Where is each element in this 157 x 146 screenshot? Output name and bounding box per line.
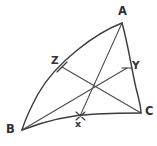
vertex-label-C: C (145, 106, 154, 118)
geometry-figure: A B C Z Y x (0, 0, 157, 146)
point-label-Z: Z (51, 55, 59, 66)
point-label-Y: Y (132, 60, 140, 71)
cevian-C-to-Z (62, 67, 141, 113)
vertex-label-B: B (6, 124, 15, 136)
cevian-A-to-x (80, 23, 122, 116)
point-label-x: x (75, 119, 81, 129)
vertex-label-A: A (118, 6, 127, 18)
